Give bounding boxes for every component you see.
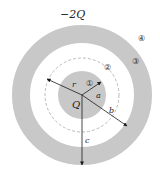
concentric-sphere-diagram: −2Q Q r a b c ① ② ③ ④ <box>0 0 160 175</box>
region-1-label: ① <box>86 79 93 88</box>
region-4-label: ④ <box>138 34 145 43</box>
radius-b-label: b <box>109 106 114 115</box>
region-3-label: ③ <box>132 57 139 66</box>
radius-c-label: c <box>85 136 90 145</box>
radius-a-label: a <box>96 91 101 100</box>
inner-charge-label: Q <box>72 99 80 110</box>
outer-charge-label: −2Q <box>60 8 85 21</box>
region-2-label: ② <box>104 63 111 72</box>
